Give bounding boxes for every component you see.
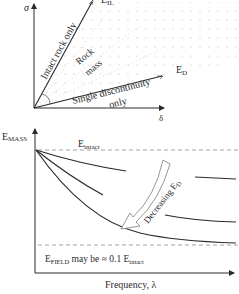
emass-axis-label: EMASS bbox=[2, 131, 27, 143]
rock-mass-modulus-diagram: σ δ EIL ED Intact rock only Rock mass Si… bbox=[0, 0, 239, 294]
efield-note: EFIELD may be ≈ 0.1 Eintact bbox=[45, 254, 144, 265]
frequency-axis-label: Frequency, λ bbox=[105, 279, 157, 290]
curve-3 bbox=[36, 150, 236, 243]
curve-5 bbox=[165, 215, 236, 222]
sigma-axis-label: σ bbox=[24, 2, 30, 13]
curve-4 bbox=[195, 177, 236, 179]
stress-displacement-diagram: σ δ EIL ED Intact rock only Rock mass Si… bbox=[0, 0, 239, 123]
delta-axis-label: δ bbox=[159, 113, 163, 123]
modulus-curves bbox=[36, 150, 236, 243]
eintact-label: Eintact bbox=[78, 138, 100, 151]
curve-2 bbox=[36, 150, 103, 195]
modulus-frequency-chart: EMASS Frequency, λ Eintact Decreasing ED… bbox=[2, 129, 239, 290]
decreasing-ed-arrow: Decreasing ED bbox=[121, 160, 183, 229]
